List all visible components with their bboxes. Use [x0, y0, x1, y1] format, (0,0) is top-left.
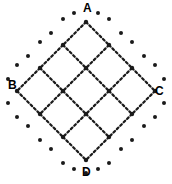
halo-dot — [142, 54, 146, 58]
lattice-edge — [86, 137, 109, 160]
halo-dot — [15, 63, 19, 67]
lattice-node-dot — [130, 66, 134, 70]
lattice-edge — [109, 45, 132, 68]
lattice-node-dot — [84, 66, 88, 70]
vertex-label-b: B — [8, 79, 17, 91]
lattice-edge — [63, 45, 86, 68]
vertex-label-c: C — [155, 85, 164, 97]
lattice-node-dot — [84, 20, 88, 24]
halo-dot — [6, 101, 10, 105]
lattice-edge — [40, 68, 63, 91]
halo-dot — [119, 31, 123, 35]
halo-dot — [130, 40, 134, 44]
vertex-label-d: D — [82, 166, 91, 178]
halo-dot — [96, 11, 100, 15]
lattice-edge — [109, 91, 132, 114]
lattice-edge — [86, 22, 109, 45]
lattice-edge — [40, 114, 63, 137]
halo-dot — [38, 40, 42, 44]
halo-dot — [26, 54, 30, 58]
vertex-label-a: A — [83, 2, 92, 14]
lattice-edge — [40, 91, 63, 114]
halo-dot — [72, 11, 76, 15]
lattice-edge — [109, 114, 132, 137]
lattice-node-dot — [107, 135, 111, 139]
halo-dot — [96, 167, 100, 171]
lattice-node-dot — [107, 43, 111, 47]
lattice-node-dot — [61, 135, 65, 139]
lattice-edge — [17, 91, 40, 114]
lattice-edge — [86, 45, 109, 68]
lattice-edge — [40, 45, 63, 68]
halo-dot — [61, 161, 65, 165]
halo-dot — [38, 138, 42, 142]
lattice-node-dot — [61, 89, 65, 93]
lattice-edge — [63, 68, 86, 91]
halo-dot — [107, 161, 111, 165]
lattice-svg — [0, 0, 172, 184]
lattice-edge — [63, 22, 86, 45]
halo-dot — [26, 124, 30, 128]
halo-dot — [130, 138, 134, 142]
lattice-node-layer — [15, 20, 157, 162]
lattice-figure: A B C D — [0, 0, 172, 184]
halo-dot — [49, 147, 53, 151]
lattice-edge — [86, 68, 109, 91]
halo-dot — [162, 77, 166, 81]
lattice-node-dot — [84, 112, 88, 116]
lattice-node-dot — [61, 43, 65, 47]
halo-dot — [15, 115, 19, 119]
lattice-edge-layer — [17, 22, 155, 160]
halo-dot — [153, 63, 157, 67]
lattice-edge — [132, 68, 155, 91]
lattice-node-dot — [84, 158, 88, 162]
lattice-edge — [86, 114, 109, 137]
lattice-edge — [86, 91, 109, 114]
halo-dot-layer — [6, 11, 166, 175]
halo-dot — [61, 17, 65, 21]
halo-dot — [107, 17, 111, 21]
halo-dot — [72, 167, 76, 171]
lattice-edge — [63, 114, 86, 137]
halo-dot — [153, 115, 157, 119]
halo-dot — [162, 101, 166, 105]
halo-dot — [142, 124, 146, 128]
lattice-node-dot — [38, 112, 42, 116]
lattice-node-dot — [107, 89, 111, 93]
lattice-edge — [63, 91, 86, 114]
lattice-edge — [109, 68, 132, 91]
lattice-node-dot — [130, 112, 134, 116]
lattice-node-dot — [38, 66, 42, 70]
lattice-edge — [63, 137, 86, 160]
halo-dot — [49, 31, 53, 35]
lattice-edge — [132, 91, 155, 114]
lattice-edge — [17, 68, 40, 91]
halo-dot — [119, 147, 123, 151]
